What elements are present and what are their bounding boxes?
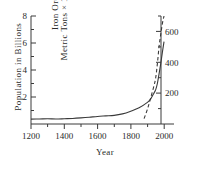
xtick-label: 1400: [55, 131, 74, 141]
y-axis-title-right-line2: Metric Tons × 1 million: [60, 0, 69, 61]
right-axis-tick-labels: 200 400 600: [165, 27, 179, 99]
xtick-label: 1800: [122, 131, 141, 141]
ytick-right-label: 200: [165, 88, 179, 98]
y-axis-title-right: Iron Ore Metric Tons × 1 million: [47, 0, 73, 73]
bottom-axis-tick-labels: 1200 1400 1600 1800 2000: [22, 131, 174, 141]
ytick-right-label: 400: [165, 58, 179, 68]
xtick-label: 2000: [155, 131, 174, 141]
xtick-label: 1200: [22, 131, 41, 141]
x-axis-title: Year: [60, 148, 150, 157]
y-axis-title-left: Population in Billions: [14, 7, 23, 127]
chart-figure: 2 4 6 8 200 400 600 1200 1400 1600 1800 …: [0, 0, 224, 171]
chart-plot-area: 2 4 6 8 200 400 600 1200 1400 1600 1800 …: [0, 0, 224, 171]
xtick-label: 1600: [89, 131, 108, 141]
bottom-axis-major-ticks: [31, 124, 164, 129]
ytick-right-label: 600: [165, 27, 179, 37]
